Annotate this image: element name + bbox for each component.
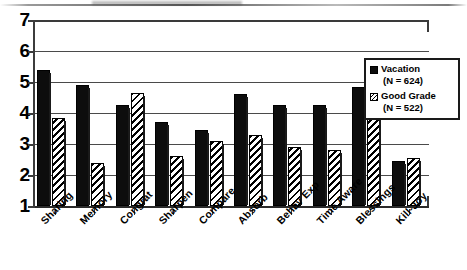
y-tick-mark-1 <box>28 206 34 208</box>
y-tick-label-3: 3 <box>8 134 30 153</box>
solid-black-square-icon <box>370 66 378 74</box>
bar-group-compare <box>195 20 234 206</box>
bar-group-memory <box>76 20 115 206</box>
y-tick-mark-2 <box>28 175 34 177</box>
y-tick-mark-5 <box>28 82 34 84</box>
bar-vacation-2 <box>116 105 129 206</box>
bar-vacation-4 <box>195 130 208 206</box>
legend-label-vacation: Vacation <box>381 64 420 75</box>
bar-vacation-0 <box>37 70 50 206</box>
hatched-square-icon <box>370 93 378 101</box>
legend-label-good-grade: Good Grade <box>381 91 436 102</box>
y-tick-label-1: 1 <box>8 196 30 215</box>
bar-vacation-3 <box>155 122 168 206</box>
y-tick-mark-6 <box>28 51 34 53</box>
y-tick-mark-4 <box>28 113 34 115</box>
bar-chart: 1234567 SharingMemoryCongratSharpenCompa… <box>0 0 467 270</box>
x-axis-category-labels: SharingMemoryCongratSharpenCompareAbsorb… <box>35 209 435 267</box>
y-tick-mark-7 <box>28 20 34 22</box>
bar-group-congrat <box>116 20 155 206</box>
bar-good-grade-2 <box>131 93 144 206</box>
bar-vacation-5 <box>234 94 247 206</box>
chart-legend: Vacation (N = 624) Good Grade (N = 522) <box>364 58 460 120</box>
y-tick-label-2: 2 <box>8 165 30 184</box>
bar-group-absorb <box>234 20 273 206</box>
legend-sublabel-vacation: (N = 624) <box>383 76 454 87</box>
legend-entry-good-grade: Good Grade <box>370 91 454 102</box>
y-axis-tick-labels: 1234567 <box>0 0 30 270</box>
y-tick-label-5: 5 <box>8 72 30 91</box>
bar-group-behav-exp <box>273 20 312 206</box>
bar-vacation-9 <box>392 161 405 206</box>
y-tick-label-7: 7 <box>8 10 30 29</box>
y-tick-label-6: 6 <box>8 41 30 60</box>
legend-sublabel-good-grade: (N = 522) <box>383 103 454 114</box>
bar-group-sharpen <box>155 20 194 206</box>
y-tick-label-4: 4 <box>8 103 30 122</box>
bar-group-sharing <box>37 20 76 206</box>
bar-vacation-6 <box>273 105 286 206</box>
bar-vacation-1 <box>76 85 89 206</box>
y-tick-mark-3 <box>28 144 34 146</box>
legend-entry-vacation: Vacation <box>370 64 454 75</box>
bar-group-time-aware <box>313 20 352 206</box>
